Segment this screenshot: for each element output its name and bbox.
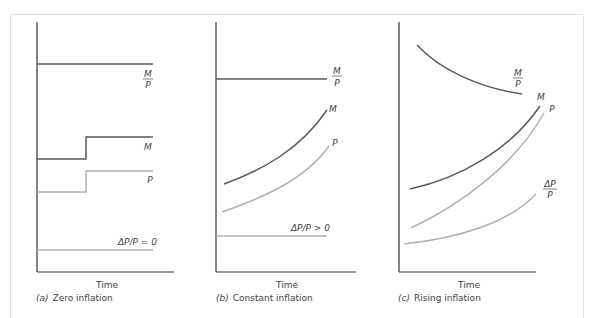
panel-a-mp-num: M xyxy=(144,69,152,79)
panel-c-mp-num: M xyxy=(514,68,522,78)
panel-a-p-label: P xyxy=(147,175,153,185)
panel-c-mp-curve xyxy=(417,45,522,94)
panel-b-caption: (b)Constant inflation xyxy=(216,293,313,303)
panel-b-inflation-label: ΔP/P > 0 xyxy=(290,223,330,233)
panel-c-mp-den: P xyxy=(515,79,521,89)
panel-a-m-label: M xyxy=(144,142,152,152)
panel-c-p-label: P xyxy=(549,104,555,114)
panel-c-inflation-curve xyxy=(404,194,536,244)
panel-c-p-curve xyxy=(411,113,544,228)
panel-b-m-curve xyxy=(224,110,327,184)
panel-b-mp-num: M xyxy=(333,66,341,76)
panel-a-caption: (a)Zero inflation xyxy=(36,293,113,303)
panel-a-xlabel: Time xyxy=(95,280,118,290)
panel-b-constant-inflation: M P M P ΔP/P > 0 Time (b)Constant inflat… xyxy=(216,22,356,303)
panel-c-rising-inflation: M P M P ΔP P Time (c)Rising inflation xyxy=(398,22,557,303)
inflation-figure: M P M P ΔP/P = 0 Time (a)Zero inflation … xyxy=(0,0,594,318)
panel-c-m-label: M xyxy=(537,92,545,102)
panel-c-inflation-num: ΔP xyxy=(543,179,556,189)
panel-b-mp-den: P xyxy=(334,78,340,88)
panel-c-caption: (c)Rising inflation xyxy=(398,293,481,303)
panel-b-m-label: M xyxy=(329,104,337,114)
panel-c-inflation-den: P xyxy=(547,190,553,200)
panel-a-p-line xyxy=(37,171,153,192)
panel-a-m-line xyxy=(37,137,153,159)
panel-c-xlabel: Time xyxy=(457,280,480,290)
panel-a-inflation-label: ΔP/P = 0 xyxy=(117,237,157,247)
panel-b-p-label: P xyxy=(332,138,338,148)
panel-b-xlabel: Time xyxy=(275,280,298,290)
panel-a-mp-den: P xyxy=(145,80,151,90)
panel-a-zero-inflation: M P M P ΔP/P = 0 Time (a)Zero inflation xyxy=(36,22,174,303)
